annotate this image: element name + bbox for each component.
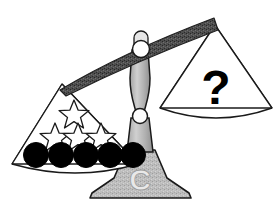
pivot-hinge	[133, 31, 150, 58]
circle-item	[49, 143, 74, 168]
circle-items	[24, 143, 146, 168]
balance-scale-illustration: C	[0, 0, 279, 212]
circle-item	[98, 143, 123, 168]
pillar-joint-knob	[133, 109, 148, 124]
circle-item	[121, 143, 146, 168]
balance-scale-figure: C	[0, 0, 279, 212]
circle-item	[24, 143, 49, 168]
pivot-bolt	[133, 41, 150, 58]
question-mark-icon: ?	[201, 61, 230, 114]
left-pan	[12, 84, 146, 173]
circle-item	[74, 143, 99, 168]
